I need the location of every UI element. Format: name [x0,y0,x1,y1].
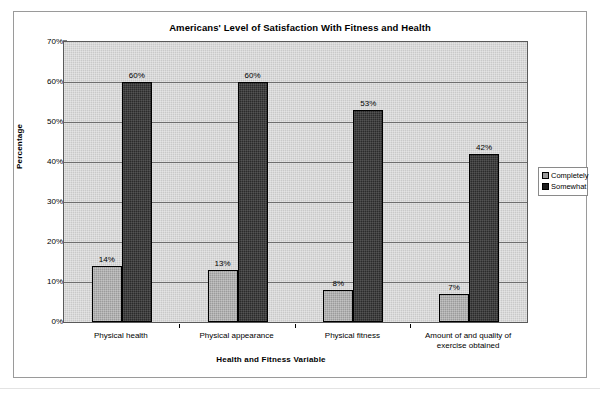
x-axis-category-label: Physical appearance [179,331,295,341]
y-axis-tick-label: 50% [29,117,63,126]
bar-completely-3 [439,294,469,322]
y-axis-tick-label: 0% [29,317,63,326]
bar-completely-2 [323,290,353,322]
x-axis-category-label: Physical fitness [295,331,411,341]
x-axis-tick-mark [410,324,411,328]
scan-artifact [0,388,600,389]
bar-value-label: 53% [345,99,391,108]
chart-title: Americans' Level of Satisfaction With Fi… [14,22,586,33]
legend-item-somewhat[interactable]: Somewhat [542,181,585,192]
chart-legend: CompletelySomewhat [538,167,588,196]
y-axis-tick-label: 20% [29,237,63,246]
x-axis-category-label: Amount of and quality of exercise obtain… [410,331,526,351]
bar-completely-0 [92,266,122,322]
bar-somewhat-2 [353,110,383,322]
y-axis-tick-label: 70% [29,37,63,46]
legend-item-completely[interactable]: Completely [542,170,585,181]
y-axis-title: Percentage [15,124,24,169]
bar-somewhat-1 [238,82,268,322]
x-axis: Physical healthPhysical appearancePhysic… [63,324,528,354]
bar-somewhat-0 [122,82,152,322]
plot-area: 14%60%13%60%8%53%7%42% [63,41,528,323]
y-axis-tick-label: 60% [29,77,63,86]
x-axis-category-label: Physical health [63,331,179,341]
x-axis-tick-mark [295,324,296,328]
x-axis-tick-mark [179,324,180,328]
bar-completely-1 [208,270,238,322]
y-axis-tick-label: 10% [29,277,63,286]
legend-label: Completely [551,171,589,180]
legend-label: Somewhat [551,182,586,191]
bar-value-label: 42% [461,143,507,152]
bar-somewhat-3 [469,154,499,322]
legend-swatch-icon [542,172,549,179]
y-axis-tick-label: 40% [29,157,63,166]
chart-frame: Americans' Level of Satisfaction With Fi… [13,11,587,378]
y-axis-tick-label: 30% [29,197,63,206]
legend-swatch-icon [542,183,549,190]
bar-value-label: 60% [230,71,276,80]
y-axis: Percentage 0%10%20%30%40%50%60%70% [22,41,63,323]
x-axis-title: Health and Fitness Variable [14,355,528,364]
bar-value-label: 60% [114,71,160,80]
